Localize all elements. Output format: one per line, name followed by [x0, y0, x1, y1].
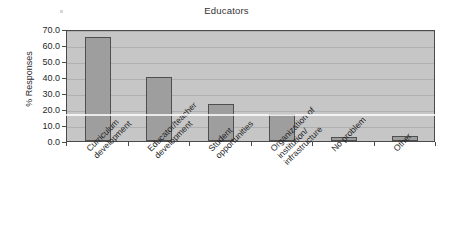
gridline — [67, 79, 434, 80]
x-axis-tick-mark — [128, 142, 129, 146]
x-axis-tick-mark — [374, 142, 375, 146]
chart-title: Educators — [0, 5, 453, 16]
gridline — [67, 63, 434, 64]
y-axis-tick-label: 50.0 — [16, 58, 60, 67]
gridline — [67, 47, 434, 48]
gridline — [67, 95, 434, 96]
figure-container: Educators % Responses 70.060.050.040.030… — [0, 0, 453, 227]
y-axis-tick-label: 30.0 — [16, 90, 60, 99]
y-axis-tick-label: 0.0 — [16, 138, 60, 147]
x-axis-tick-mark — [435, 142, 436, 146]
y-axis-tick-label: 40.0 — [16, 74, 60, 83]
y-axis-tick-label: 20.0 — [16, 106, 60, 115]
x-axis-tick-mark — [251, 142, 252, 146]
x-axis-tick-mark — [189, 142, 190, 146]
y-axis-tick-label: 70.0 — [16, 26, 60, 35]
gridline — [67, 31, 434, 32]
y-axis-tick-label: 60.0 — [16, 42, 60, 51]
gridline — [67, 111, 434, 112]
y-axis-tick-label: 10.0 — [16, 122, 60, 131]
x-axis-tick-mark — [66, 142, 67, 146]
